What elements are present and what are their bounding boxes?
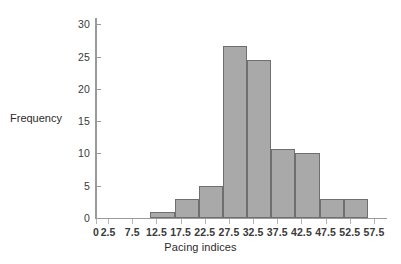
x-tick-label: 27.5 xyxy=(218,226,239,238)
y-tick-label: 15 xyxy=(68,115,90,127)
histogram-bar xyxy=(320,199,344,218)
y-tick-label: 25 xyxy=(68,51,90,63)
x-tick-label: 2.5 xyxy=(101,226,116,238)
y-tick-label: 20 xyxy=(68,83,90,95)
x-tick xyxy=(253,219,254,224)
histogram-bar xyxy=(223,46,247,218)
x-tick xyxy=(205,219,206,224)
x-tick-label: 32.5 xyxy=(243,226,264,238)
histogram-bar xyxy=(271,149,295,218)
histogram-bar xyxy=(175,199,199,218)
y-tick-label: 30 xyxy=(68,18,90,30)
x-tick-label: 42.5 xyxy=(291,226,312,238)
x-tick xyxy=(374,219,375,224)
y-tick-label: 5 xyxy=(68,180,90,192)
histogram-bar xyxy=(150,212,174,218)
x-tick-label: 57.5 xyxy=(363,226,384,238)
x-tick xyxy=(350,219,351,224)
y-tick-label: 10 xyxy=(68,147,90,159)
histogram-bar xyxy=(247,60,271,218)
y-axis-title: Frequency xyxy=(10,112,62,124)
x-tick-label: 17.5 xyxy=(170,226,191,238)
x-tick-label: 37.5 xyxy=(267,226,288,238)
x-tick-label: 7.5 xyxy=(125,226,140,238)
x-tick xyxy=(229,219,230,224)
x-tick xyxy=(108,219,109,224)
x-tick-label: 12.5 xyxy=(146,226,167,238)
histogram-bar xyxy=(344,199,368,218)
x-tick xyxy=(181,219,182,224)
x-tick-label: 0 xyxy=(93,226,99,238)
x-tick xyxy=(326,219,327,224)
x-tick xyxy=(96,219,97,224)
x-tick xyxy=(277,219,278,224)
x-tick-label: 52.5 xyxy=(339,226,360,238)
x-tick-label: 22.5 xyxy=(194,226,215,238)
x-tick xyxy=(156,219,157,224)
histogram-bar xyxy=(295,153,319,218)
bars-layer xyxy=(96,18,386,218)
x-tick-label: 47.5 xyxy=(315,226,336,238)
histogram-bar xyxy=(199,186,223,218)
histogram-chart: 051015202530 02.57.512.517.522.527.532.5… xyxy=(0,0,401,264)
x-tick xyxy=(132,219,133,224)
x-axis-title: Pacing indices xyxy=(0,241,401,253)
x-tick xyxy=(301,219,302,224)
y-tick-label: 0 xyxy=(68,212,90,224)
